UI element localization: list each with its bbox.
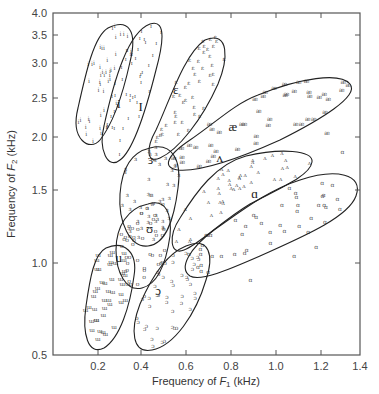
data-point: ɛ <box>209 71 212 78</box>
data-point: ɜ <box>133 197 136 204</box>
y-tick-label: 1.5 <box>32 184 47 196</box>
data-point: ɔ <box>180 292 184 299</box>
data-point: ɑ <box>309 214 313 221</box>
vowel-label-1: I <box>139 99 143 114</box>
x-axis-title: Frequency of F1 (kHz) <box>152 375 260 389</box>
data-point: i <box>115 33 117 40</box>
outlier-point: ɑ <box>314 243 318 250</box>
data-point: ɪ <box>144 38 146 45</box>
data-point: æ <box>306 88 312 95</box>
data-point: ɯ <box>108 258 114 265</box>
data-point: ʌ <box>209 211 214 218</box>
data-point: ʌ <box>206 198 211 205</box>
data-point: ʌ <box>176 225 181 232</box>
data-point: i <box>113 64 115 71</box>
data-point: æ <box>187 141 193 148</box>
data-point: ɪ <box>140 78 142 85</box>
data-point: ɔ <box>171 307 175 314</box>
data-point: i <box>103 44 105 51</box>
data-point: ʌ <box>292 172 297 179</box>
y-tick-label: 0.5 <box>32 349 47 361</box>
data-point: ɪ <box>114 91 116 98</box>
data-point: æ <box>293 120 299 127</box>
data-point: i <box>99 78 101 85</box>
data-point: ɛ <box>193 110 196 117</box>
x-tick-label: 1.2 <box>313 360 328 372</box>
data-point: ɑ <box>220 252 224 259</box>
data-point: i <box>102 87 104 94</box>
data-point: ɯ <box>109 275 115 282</box>
data-point: ɑ <box>335 195 339 202</box>
data-point: i <box>78 118 80 125</box>
data-point: æ <box>299 120 305 127</box>
data-point: ɑ <box>295 207 299 214</box>
data-point: ɯ <box>102 304 108 311</box>
data-point: ʌ <box>215 184 220 191</box>
y-tick-label: 2.5 <box>32 92 47 104</box>
data-point: ɑ <box>210 252 214 259</box>
data-point: æ <box>254 132 260 139</box>
data-point: ɜ <box>158 160 161 167</box>
data-point: i <box>99 63 101 70</box>
data-point: ɑ <box>280 201 284 208</box>
data-point: ʊ <box>148 250 152 257</box>
data-point: ɪ <box>148 61 150 68</box>
vowel-label-0: i <box>117 96 121 111</box>
data-point: ɪ <box>152 51 154 58</box>
data-point: ɔ <box>155 324 159 331</box>
data-point: i <box>123 30 125 37</box>
data-point: ɛ <box>206 45 209 52</box>
ellipse-6 <box>185 174 357 278</box>
data-point: ɯ <box>111 323 117 330</box>
data-point: i <box>91 60 93 67</box>
data-point: ɪ <box>139 34 141 41</box>
data-point: æ <box>305 115 311 122</box>
data-point: ɛ <box>180 118 183 125</box>
data-point: i <box>115 50 117 57</box>
data-point: ʌ <box>227 176 232 183</box>
data-point: ɛ <box>187 79 190 86</box>
data-point: ʌ <box>283 156 288 163</box>
data-point: ʌ <box>188 214 193 221</box>
data-point: ɜ <box>166 180 169 187</box>
data-point: ɛ <box>208 52 211 59</box>
data-point: ɜ <box>173 162 176 169</box>
data-point: ɪ <box>119 136 121 143</box>
data-point: ʌ <box>220 170 225 177</box>
data-point: ʌ <box>278 175 283 182</box>
x-tick-label: 0.8 <box>223 360 238 372</box>
data-point: æ <box>179 158 185 165</box>
data-point: ɑ <box>297 222 301 229</box>
data-point: ɪ <box>106 120 108 127</box>
data-point: ʊ <box>136 256 140 263</box>
data-point: ʊ <box>163 246 167 253</box>
data-point: ɪ <box>134 92 136 99</box>
data-point: ɛ <box>178 91 181 98</box>
data-point: ɯ <box>89 326 95 333</box>
data-point: ɪ <box>113 124 115 131</box>
data-point: ʊ <box>131 224 135 231</box>
data-point: ɛ <box>203 42 206 49</box>
data-point: ɯ <box>108 251 114 258</box>
data-point: ɔ <box>161 273 165 280</box>
data-point: ɪ <box>121 75 123 82</box>
y-tick-label: 2.0 <box>32 131 47 143</box>
data-point: ɜ <box>126 191 129 198</box>
data-point: æ <box>339 86 345 93</box>
data-point: æ <box>209 125 215 132</box>
data-point: æ <box>206 157 212 164</box>
data-point: ɑ <box>234 216 238 223</box>
data-point: i <box>85 123 87 130</box>
data-point: ɛ <box>197 57 200 64</box>
data-point: ɛ <box>184 96 187 103</box>
y-tick-label: 4.0 <box>32 7 47 19</box>
vowel-label-6: ɑ <box>251 186 258 201</box>
data-point: ɛ <box>212 80 215 87</box>
outlier-point: æ <box>324 129 330 136</box>
data-point: æ <box>235 145 241 152</box>
data-point: ɑ <box>260 219 264 226</box>
data-point: ɜ <box>140 224 143 231</box>
data-point: ɪ <box>137 45 139 52</box>
data-point: ɯ <box>100 311 106 318</box>
data-point: ʊ <box>162 225 166 232</box>
